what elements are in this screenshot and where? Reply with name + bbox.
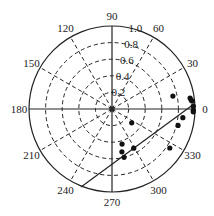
angle-label: 180 xyxy=(11,103,28,115)
data-point xyxy=(119,142,124,147)
radius-label: 0.8 xyxy=(124,38,138,50)
angle-label: 30 xyxy=(187,57,199,69)
grid-spoke xyxy=(40,68,112,110)
data-point xyxy=(170,93,175,98)
angle-label: 240 xyxy=(57,184,74,196)
radius-label: 0.6 xyxy=(120,54,134,66)
data-point xyxy=(119,149,124,154)
data-point xyxy=(131,146,136,151)
data-point xyxy=(190,98,195,103)
grid-spoke xyxy=(71,37,113,109)
angle-label: 330 xyxy=(184,149,201,161)
data-point xyxy=(175,123,180,128)
chart-axes xyxy=(29,26,195,192)
data-point xyxy=(121,155,126,160)
angle-label: 300 xyxy=(150,184,167,196)
grid-spoke xyxy=(71,109,113,181)
polar-chart: 03060901201501802102402703003300.20.40.6… xyxy=(0,0,214,216)
regression-line xyxy=(81,104,194,187)
angle-label: 0 xyxy=(202,103,208,115)
radius-label: 0.4 xyxy=(116,70,130,82)
data-point xyxy=(180,115,185,120)
radius-label: 1.0 xyxy=(129,22,143,34)
angle-label: 270 xyxy=(104,196,121,208)
angle-label: 210 xyxy=(23,149,40,161)
angle-label: 90 xyxy=(107,10,119,22)
radius-label: 0.2 xyxy=(111,86,125,98)
data-point xyxy=(191,109,196,114)
angle-label: 60 xyxy=(153,22,165,34)
grid-spoke xyxy=(112,109,154,181)
data-point xyxy=(129,120,134,125)
angle-label: 120 xyxy=(57,22,74,34)
fit-line xyxy=(81,104,194,187)
data-point xyxy=(167,145,172,150)
grid-spoke xyxy=(40,109,112,151)
angle-label: 150 xyxy=(23,57,40,69)
